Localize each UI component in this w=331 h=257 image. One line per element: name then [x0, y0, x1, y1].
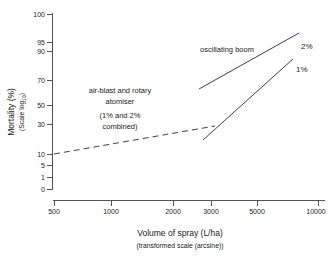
series-label-2pct: 2% [301, 42, 313, 51]
x-tick-label-10000: 10000 [306, 208, 326, 215]
annotation-oscillating-boom: oscillating boom [200, 45, 254, 54]
series-line-oscillating-boom-1pct [203, 59, 293, 140]
y-tick-label-50: 50 [37, 102, 45, 109]
y-axis-subtitle: (Scale log10) [18, 93, 27, 131]
x-axis-title: Volume of spray (L/ha) [137, 228, 223, 238]
y-tick-label-1: 1 [41, 174, 45, 181]
y-axis-subtitle-prefix: (Scale log [18, 100, 26, 130]
series-line-oscillating-boom-2pct [199, 33, 299, 89]
y-tick-label-5: 5 [41, 162, 45, 169]
x-tick-label-2000: 2000 [165, 208, 181, 215]
annotation-air-blast-line-2: atomiser [106, 97, 135, 106]
y-tick-marks [47, 14, 53, 189]
y-tick-label-30: 30 [37, 121, 45, 128]
chart-canvas: 100 95 90 70 50 30 10 5 1 0 500 1000 200… [0, 0, 331, 257]
x-tick-label-1000: 1000 [103, 208, 119, 215]
y-axis-title: Mortality (%) [6, 88, 16, 136]
y-tick-label-95: 95 [37, 39, 45, 46]
y-tick-label-10: 10 [37, 151, 45, 158]
x-tick-marks [54, 201, 318, 207]
annotation-air-blast-line-1: air-blast and rotary [89, 86, 152, 95]
y-tick-label-0: 0 [41, 186, 45, 193]
series-label-1pct: 1% [296, 65, 308, 74]
y-tick-label-70: 70 [37, 77, 45, 84]
y-tick-label-90: 90 [37, 48, 45, 55]
y-tick-label-100: 100 [33, 11, 45, 18]
x-tick-label-3000: 3000 [203, 208, 219, 215]
y-axis-subtitle-suffix: ) [18, 93, 26, 95]
annotation-air-blast-line-4: combined) [102, 122, 138, 131]
x-tick-label-500: 500 [48, 208, 60, 215]
x-tick-label-5000: 5000 [249, 208, 265, 215]
annotation-air-blast-line-3: (1% and 2% [100, 111, 141, 120]
mortality-vs-spray-volume-chart: 100 95 90 70 50 30 10 5 1 0 500 1000 200… [0, 0, 331, 257]
x-axis-subtitle: (transformed scale (arcsine)) [137, 242, 224, 250]
